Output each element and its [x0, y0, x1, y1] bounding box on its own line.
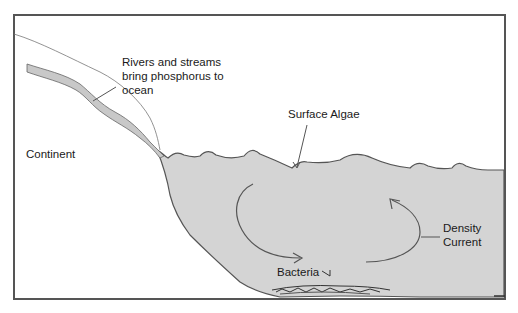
rivers-label-line2: bring phosphorus to	[122, 70, 224, 82]
density-current-label-line2: Current	[443, 236, 482, 248]
rivers-label-line1: Rivers and streams	[122, 56, 221, 68]
density-current-label-line1: Density	[443, 222, 482, 234]
river-leader-line	[93, 87, 116, 101]
phosphorus-cycle-diagram: Rivers and streams bring phosphorus to o…	[0, 0, 518, 313]
surface-algae-label: Surface Algae	[288, 108, 360, 120]
continent-label: Continent	[26, 148, 76, 160]
rivers-label-line3: ocean	[122, 84, 153, 96]
surface-algae-arrow	[297, 125, 307, 167]
bacteria-label: Bacteria	[277, 266, 320, 278]
